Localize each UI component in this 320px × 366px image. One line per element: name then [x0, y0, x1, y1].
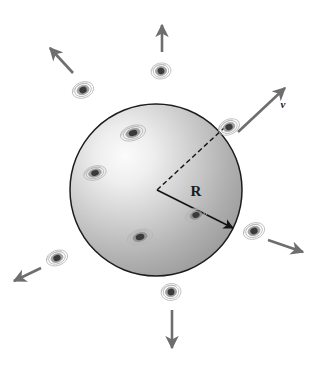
velocity-label: v	[281, 98, 286, 110]
radius-label: R	[191, 183, 202, 199]
shaded-sphere	[70, 104, 242, 276]
diagram-canvas: R v	[0, 0, 320, 366]
expanding-sphere-diagram: R v	[0, 0, 320, 366]
